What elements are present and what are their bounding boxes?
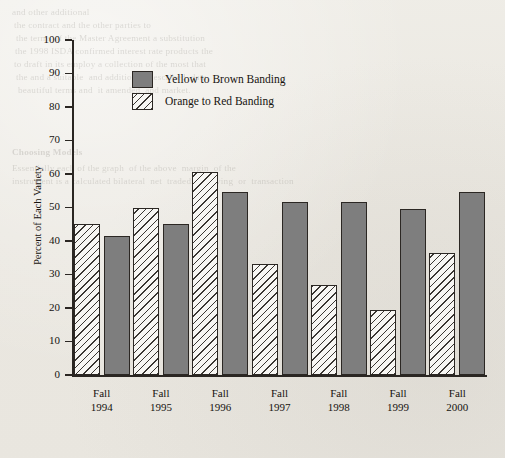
bar bbox=[74, 224, 100, 375]
y-axis-tick-label: 10 bbox=[24, 334, 60, 346]
y-axis-tick-label: 20 bbox=[24, 301, 60, 313]
y-axis-tick-mark bbox=[65, 207, 72, 209]
legend-label: Orange to Red Banding bbox=[165, 95, 274, 107]
y-axis-tick-mark bbox=[65, 173, 72, 175]
y-axis-tick-label: 80 bbox=[24, 100, 60, 112]
y-axis-tick-mark bbox=[65, 374, 72, 376]
x-axis-category-label: Fall 2000 bbox=[417, 387, 497, 414]
bar bbox=[429, 253, 455, 375]
y-axis-tick-mark bbox=[65, 39, 72, 41]
y-axis-tick-mark bbox=[65, 307, 72, 309]
y-axis-tick-label: 100 bbox=[24, 33, 60, 45]
bar bbox=[252, 264, 278, 375]
bar bbox=[104, 236, 130, 375]
legend-swatch-hatch-icon bbox=[132, 93, 153, 110]
bar bbox=[133, 208, 159, 376]
y-axis-tick-label: 60 bbox=[24, 167, 60, 179]
chart-legend: Yellow to Brown Banding Orange to Red Ba… bbox=[132, 68, 286, 112]
bar bbox=[370, 310, 396, 375]
legend-swatch-solid-icon bbox=[132, 71, 153, 88]
y-axis-tick-label: 40 bbox=[24, 234, 60, 246]
bar bbox=[459, 192, 485, 375]
legend-entry-yellow-to-brown: Yellow to Brown Banding bbox=[132, 68, 286, 90]
bar bbox=[163, 224, 189, 375]
legend-entry-orange-to-red: Orange to Red Banding bbox=[132, 90, 286, 112]
y-axis-tick-mark bbox=[65, 140, 72, 142]
y-axis-tick-label: 30 bbox=[24, 267, 60, 279]
y-axis-tick-label: 0 bbox=[24, 368, 60, 380]
y-axis-tick-label: 90 bbox=[24, 66, 60, 78]
bar bbox=[282, 202, 308, 375]
y-axis-tick-mark bbox=[65, 106, 72, 108]
y-axis-tick-label: 50 bbox=[24, 200, 60, 212]
y-axis-tick-mark bbox=[65, 73, 72, 75]
y-axis-title: Percent of Each Variety bbox=[32, 165, 43, 264]
bar bbox=[400, 209, 426, 375]
y-axis-tick-mark bbox=[65, 240, 72, 242]
y-axis-tick-mark bbox=[65, 274, 72, 276]
y-axis-tick-mark bbox=[65, 341, 72, 343]
bar bbox=[192, 172, 218, 375]
bar bbox=[222, 192, 248, 375]
y-axis-tick-label: 70 bbox=[24, 133, 60, 145]
legend-label: Yellow to Brown Banding bbox=[165, 73, 286, 85]
x-axis-line bbox=[72, 375, 487, 377]
bar bbox=[311, 285, 337, 375]
bar-chart: Percent of Each Variety 0102030405060708… bbox=[0, 0, 505, 458]
bar bbox=[341, 202, 367, 375]
